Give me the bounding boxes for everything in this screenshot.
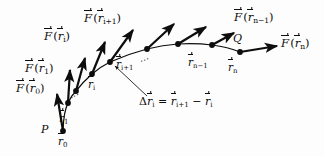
equals-symbol: = — [158, 95, 167, 108]
vector-accent-r: r — [59, 113, 64, 124]
vector-accent-r: r — [58, 136, 63, 147]
equation-delta-r: Δri = ri+1 − ri — [139, 96, 212, 108]
point-dot-ri1 — [107, 59, 113, 65]
label-position-rn: rn — [228, 62, 237, 74]
label-force-r1: F (r1) — [25, 63, 53, 75]
vector-accent-F: F — [281, 38, 289, 50]
vector-accent-F: F — [25, 63, 33, 75]
force-vector-rn — [240, 46, 277, 52]
label-position-rn1: rn−1 — [188, 57, 208, 69]
point-dot-rn1 — [209, 42, 215, 48]
vector-accent-r: r — [30, 83, 36, 95]
vector-accent-r: r — [98, 13, 104, 25]
point-dot-p5 — [144, 46, 150, 52]
vector-accent-F: F — [84, 13, 92, 25]
label-position-ri1: ri+1 — [116, 59, 133, 71]
subscript: n−1 — [253, 16, 269, 25]
label-force-rn: F (rn) — [281, 38, 309, 50]
subscript: 0 — [63, 141, 67, 149]
figure-canvas: F (r0) F (r1) F (ri) F (ri+1) F (rn−1) F… — [0, 0, 324, 156]
subscript: i+1 — [176, 100, 189, 109]
label-force-ri1: F (ri+1) — [84, 13, 121, 25]
force-vector-rn1 — [212, 33, 234, 45]
vector-accent-r: r — [295, 38, 301, 50]
vector-accent-r: r — [88, 79, 93, 90]
vector-accent-r: r — [188, 57, 193, 68]
label-force-rn1: F (rn−1) — [234, 12, 273, 24]
delta-symbol: Δ — [139, 95, 147, 108]
vector-accent-F: F — [16, 83, 24, 95]
label-force-r0: F (r0) — [16, 83, 44, 95]
point-dot-p6 — [175, 41, 181, 47]
subscript: n — [233, 67, 237, 75]
diagram-svg — [0, 0, 324, 156]
vector-accent-r: r — [205, 96, 210, 107]
label-position-r0: r0 — [58, 136, 67, 148]
vector-accent-r: r — [58, 31, 64, 43]
vector-accent-F: F — [44, 31, 52, 43]
point-dot-Q — [237, 49, 243, 55]
vector-accent-F: F — [234, 12, 242, 24]
subscript: i — [210, 100, 212, 109]
label-position-ri: ri — [88, 79, 95, 91]
vector-accent-r: r — [116, 59, 121, 70]
subscript: i — [93, 84, 95, 92]
vector-accent-r: r — [39, 63, 45, 75]
vector-accent-r: r — [228, 62, 233, 73]
label-point-Q: Q — [233, 33, 242, 44]
subscript: i+1 — [121, 64, 133, 72]
label-point-P: P — [41, 124, 48, 135]
vector-accent-r: r — [171, 96, 176, 107]
force-vector-p6 — [178, 27, 206, 44]
label-force-ri: F (ri) — [44, 31, 70, 43]
label-position-r1: r1 — [59, 113, 68, 125]
subscript: n−1 — [193, 62, 207, 70]
vector-accent-r: r — [147, 96, 152, 107]
subscript: 1 — [64, 118, 68, 126]
subscript: i+1 — [103, 17, 116, 26]
point-dot-r1 — [65, 100, 71, 106]
vector-accent-r: r — [248, 12, 254, 24]
